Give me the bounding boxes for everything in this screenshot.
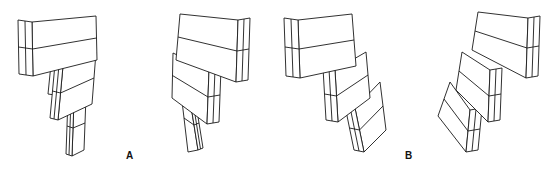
panel-a-right-view [172,14,250,152]
figure-canvas [0,0,552,174]
panel-b-right-view [438,12,540,152]
panel-label-b: B [405,150,412,161]
panel-b-left-view [284,14,386,152]
panel-label-a: A [126,150,133,161]
panel-a-left-view [18,16,97,156]
